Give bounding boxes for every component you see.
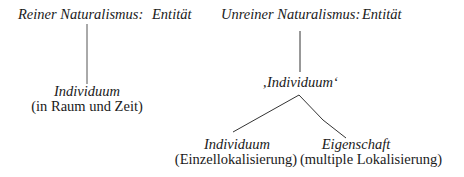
left-child-individuum: Individuum — [54, 83, 120, 99]
left-header: Reiner Naturalismus: — [18, 6, 143, 22]
right-child-individuum: Individuum — [204, 136, 270, 152]
right-header: Unreiner Naturalismus: — [221, 6, 360, 22]
right-child-eigenschaft-sub: (multiple Lokalisierung) — [300, 151, 442, 167]
right-child-individuum-sub: (Einzellokalisierung) — [175, 151, 297, 167]
right-child-eigenschaft: Eigenschaft — [322, 136, 390, 152]
left-root-entitaet: Entität — [152, 6, 191, 22]
left-child-sub: (in Raum und Zeit) — [31, 98, 143, 114]
right-root-entitaet: Entität — [362, 6, 401, 22]
right-edge-middle-eigenschaft — [299, 95, 323, 120]
right-middle-individuum: ‚Individuum‘ — [262, 74, 338, 90]
right-edge-middle-individuum — [233, 95, 299, 132]
